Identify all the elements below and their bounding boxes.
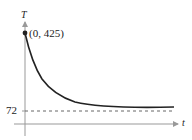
x-axis-label: t: [182, 118, 185, 128]
y-axis-label: T: [21, 10, 27, 20]
asymptote-label: 72: [6, 105, 17, 116]
point-annotation: (0, 425): [29, 28, 64, 39]
start-point-marker: [23, 31, 28, 36]
chart-canvas: [0, 0, 192, 140]
decay-curve: [25, 33, 174, 107]
